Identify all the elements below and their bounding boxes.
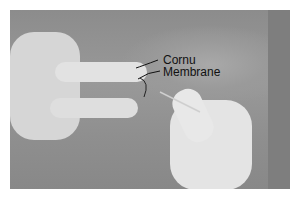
needle	[160, 92, 200, 112]
annotation-lines	[10, 10, 290, 189]
membrane-label: Membrane	[163, 66, 220, 78]
medical-photo: Cornu Membrane	[10, 10, 290, 189]
